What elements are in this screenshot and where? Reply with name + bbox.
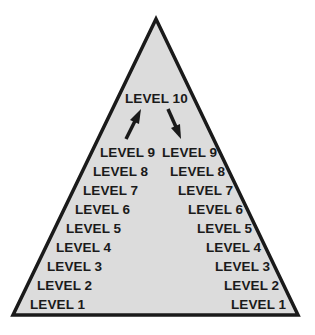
left-label-level-9: LEVEL 9 <box>100 146 155 160</box>
right-label-level-9: LEVEL 9 <box>162 146 217 160</box>
right-label-level-1: LEVEL 1 <box>231 298 286 312</box>
right-label-level-8: LEVEL 8 <box>170 165 225 179</box>
left-label-level-8: LEVEL 8 <box>93 165 148 179</box>
left-label-level-3: LEVEL 3 <box>47 260 102 274</box>
right-label-level-2: LEVEL 2 <box>224 279 279 293</box>
right-label-level-4: LEVEL 4 <box>206 241 261 255</box>
right-label-level-6: LEVEL 6 <box>188 203 243 217</box>
right-label-level-3: LEVEL 3 <box>215 260 270 274</box>
right-label-level-5: LEVEL 5 <box>197 222 252 236</box>
left-label-level-2: LEVEL 2 <box>37 279 92 293</box>
label-level-10: LEVEL 10 <box>125 92 188 106</box>
left-label-level-6: LEVEL 6 <box>75 203 130 217</box>
left-label-level-5: LEVEL 5 <box>66 222 121 236</box>
left-label-level-1: LEVEL 1 <box>30 298 85 312</box>
right-label-level-7: LEVEL 7 <box>178 184 233 198</box>
left-label-level-7: LEVEL 7 <box>83 184 138 198</box>
left-label-level-4: LEVEL 4 <box>56 241 111 255</box>
stray-mark <box>2 303 5 308</box>
